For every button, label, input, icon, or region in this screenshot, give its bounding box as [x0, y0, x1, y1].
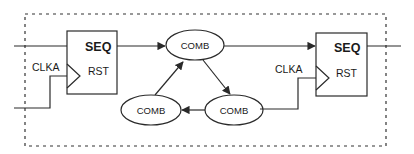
seq-block-right: SEQ RST CLKA [260, 33, 401, 109]
comb-label-top: COMB [181, 40, 210, 51]
seq-title-left: SEQ [85, 40, 112, 54]
rst-label-left: RST [88, 65, 110, 77]
comb-label-bottom-left: COMB [137, 105, 166, 116]
clka-label-right: CLKA [275, 63, 302, 75]
edge-comb-bottom-left-to-top [155, 62, 183, 95]
comb-node-bottom-right: COMB [205, 95, 263, 125]
seq-title-right: SEQ [334, 41, 361, 55]
comb-node-bottom-left: COMB [121, 95, 181, 125]
clka-label-left: CLKA [32, 61, 59, 73]
clock-wire-right [260, 78, 316, 109]
rst-label-right: RST [336, 67, 358, 79]
edge-comb-top-to-comb-bottom-right [203, 60, 230, 94]
comb-label-bottom-right: COMB [220, 105, 249, 116]
seq-block-left: SEQ RST CLKA [14, 31, 117, 108]
diagram-canvas: SEQ RST CLKA COMB COMB COMB SEQ RST CLKA [0, 0, 414, 154]
clock-wire-left [14, 76, 67, 108]
comb-node-top: COMB [166, 30, 224, 60]
